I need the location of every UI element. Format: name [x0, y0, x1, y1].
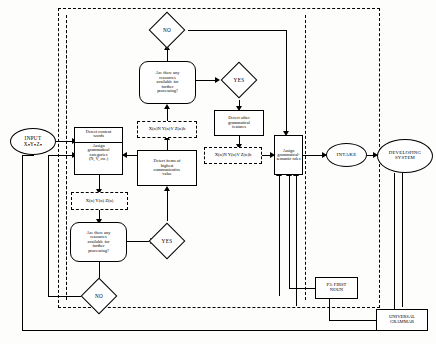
node-assign-roles[interactable]: Assign grammatical- semantic roles: [274, 135, 303, 175]
decision-yes-top-label: YES: [218, 59, 260, 101]
assign-roles-line3: semantic roles: [276, 157, 300, 161]
line-dashedmid-up: [167, 108, 168, 121]
first-noun-line2: NOUN: [330, 288, 343, 293]
node-resources-bottom[interactable]: Are there any resources available for fu…: [70, 222, 127, 262]
node-intake[interactable]: INTAKE: [326, 143, 367, 167]
resources-top-line5: processing?: [157, 89, 178, 93]
line-yes-bottom-up: [167, 190, 168, 221]
node-dashed-mid-right[interactable]: X(n)N Y(n)V Z(n)b: [204, 147, 262, 164]
line-notop-right: [188, 30, 287, 31]
decision-yes-bottom[interactable]: YES: [146, 220, 188, 262]
line-nobottom-up: [48, 155, 49, 297]
node-detect-other[interactable]: Detect other grammatical features: [214, 110, 264, 136]
line-leftrail-to-assign: [48, 155, 74, 156]
node-detect-assign[interactable]: Detect content words Assign grammatical …: [74, 127, 123, 175]
input-label-line2: XₙYₙZₙ: [24, 142, 42, 147]
node-dashed-lower-left[interactable]: X(n) Y(n) Z(n): [71, 192, 128, 210]
node-developing-system[interactable]: DEVELOPING SYSTEM: [377, 139, 433, 173]
intake-label: INTAKE: [336, 152, 356, 157]
decision-no-top-label: NO: [146, 9, 188, 51]
dashed-divider-left: [66, 15, 67, 300]
detect-content-line2: words: [93, 134, 104, 138]
arrowhead-yes-bottom-up: [164, 186, 170, 191]
assign-cat-line4: (N, V, etc.): [89, 157, 108, 161]
line-bottom-return-top: [22, 155, 34, 156]
dashed-mid-right-text: X(n)N Y(n)V Z(n)b: [215, 153, 252, 158]
line-detect-items-up: [167, 139, 168, 150]
line-developing-down-a: [394, 173, 395, 325]
node-detect-items[interactable]: Detect items of highest communicative va…: [137, 150, 197, 186]
node-input[interactable]: INPUT XₙYₙZₙ: [10, 128, 56, 155]
node-resources-top[interactable]: Are there any resources available for fu…: [139, 61, 196, 104]
decision-no-bottom[interactable]: NO: [78, 275, 120, 317]
line-feeder-a: [279, 175, 280, 296]
line-ug-left: [329, 320, 376, 321]
resources-bottom-line5: processing?: [88, 249, 109, 253]
node-dashed-mid-left[interactable]: X(n)N Y(n)V Z(n)b: [137, 121, 197, 138]
line-notop-down: [286, 30, 287, 135]
dashed-lower-left-text: X(n) Y(n) Z(n): [86, 199, 114, 204]
developing-line2: SYSTEM: [395, 156, 415, 161]
decision-no-top[interactable]: NO: [146, 9, 188, 51]
line-bottom-return-up: [22, 155, 23, 331]
line-feeder-b: [296, 175, 297, 306]
decision-yes-bottom-label: YES: [146, 220, 188, 262]
line-developing-down-b: [402, 173, 403, 307]
dashed-mid-left-text: X(n)N Y(n)V Z(n)b: [149, 127, 186, 132]
line-firstnoun-left: [289, 288, 315, 289]
decision-yes-top[interactable]: YES: [218, 59, 260, 101]
detect-other-line3: features: [232, 125, 246, 129]
dashed-divider-right: [305, 15, 306, 300]
flowchart-canvas: INPUT XₙYₙZₙ Detect content words Assign…: [0, 0, 436, 344]
arrowhead-dashedmid-up: [164, 104, 170, 109]
decision-no-bottom-label: NO: [78, 275, 120, 317]
node-universal-grammar[interactable]: UNIVERSAL GRAMMAR: [376, 309, 428, 331]
line-bottom-return: [22, 330, 402, 331]
ug-line2: GRAMMAR: [390, 320, 414, 325]
divider-detect-assign: [75, 142, 122, 143]
node-first-noun[interactable]: P3: FIRST NOUN: [315, 277, 358, 299]
detect-items-line4: value: [162, 172, 172, 176]
line-firstnoun-up: [289, 175, 290, 289]
